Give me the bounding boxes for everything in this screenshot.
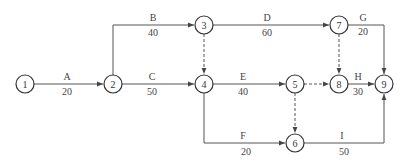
label-c-name: C [149, 71, 156, 82]
node-1: 1 [16, 75, 34, 93]
label-f-name: F [240, 130, 246, 141]
node-8: 8 [330, 75, 348, 93]
network-diagram: A 20 B 40 C 50 D 60 E 40 F 20 G 20 H 30 … [0, 0, 404, 162]
label-i-name: I [340, 130, 343, 141]
node-3: 3 [195, 16, 213, 34]
label-e-duration: 40 [238, 86, 248, 97]
label-i-duration: 50 [339, 146, 349, 157]
node-2: 2 [104, 75, 122, 93]
label-a-duration: 20 [62, 86, 72, 97]
node-6: 6 [286, 134, 304, 152]
node-9: 9 [375, 75, 393, 93]
label-g-duration: 20 [358, 26, 368, 37]
label-b-duration: 40 [148, 27, 158, 38]
label-c-duration: 50 [147, 86, 157, 97]
label-f-duration: 20 [241, 146, 251, 157]
label-e-name: E [240, 71, 246, 82]
svg-text:8: 8 [337, 79, 342, 90]
label-h-duration: 30 [353, 86, 363, 97]
svg-text:3: 3 [202, 20, 207, 31]
svg-text:2: 2 [111, 79, 116, 90]
label-d-name: D [263, 12, 270, 23]
node-7: 7 [330, 16, 348, 34]
label-b-name: B [150, 12, 157, 23]
node-4: 4 [195, 75, 213, 93]
svg-text:6: 6 [293, 138, 298, 149]
label-a-name: A [63, 71, 71, 82]
label-g-name: G [359, 12, 366, 23]
node-5: 5 [286, 75, 304, 93]
svg-text:4: 4 [202, 79, 207, 90]
svg-text:9: 9 [382, 79, 387, 90]
label-h-name: H [354, 71, 361, 82]
svg-text:5: 5 [293, 79, 298, 90]
svg-text:1: 1 [23, 79, 28, 90]
label-d-duration: 60 [262, 27, 272, 38]
edge-i [304, 94, 384, 143]
svg-text:7: 7 [337, 20, 342, 31]
